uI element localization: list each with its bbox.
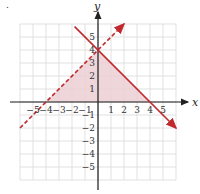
svg-text:−5: −5	[82, 162, 96, 172]
figure-marker: .	[6, 0, 9, 10]
svg-text:−4: −4	[82, 149, 96, 159]
svg-text:−2: −2	[65, 105, 78, 115]
svg-text:5: 5	[160, 105, 166, 115]
svg-text:−3: −3	[52, 105, 66, 115]
svg-text:3: 3	[134, 105, 140, 115]
svg-text:5: 5	[89, 32, 95, 42]
svg-text:−2: −2	[82, 123, 95, 133]
svg-text:−4: −4	[39, 105, 53, 115]
svg-text:2: 2	[121, 105, 127, 115]
svg-text:3: 3	[89, 58, 95, 68]
svg-text:1: 1	[108, 105, 114, 115]
svg-text:1: 1	[89, 84, 95, 94]
svg-text:4: 4	[147, 105, 153, 115]
svg-text:−1: −1	[82, 110, 95, 120]
svg-text:−5: −5	[26, 105, 40, 115]
svg-text:4: 4	[89, 45, 95, 55]
svg-text:−3: −3	[82, 136, 96, 146]
svg-text:2: 2	[89, 71, 95, 81]
y-axis-label: y	[93, 0, 101, 13]
graph: −5−4−3−2−11234554321−1−2−3−4−5 . x y	[0, 0, 200, 194]
x-axis-label: x	[192, 96, 199, 109]
